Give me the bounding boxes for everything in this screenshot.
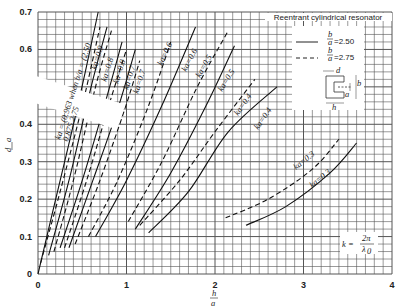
y-tick-label: 0.3 xyxy=(19,157,32,167)
curve-ka-0.4-b-a-2.50- xyxy=(149,87,277,233)
legend-dashed-label: =2.75 xyxy=(334,53,355,62)
k-formula: k = 2π λ 0 xyxy=(340,232,378,256)
curve-ka-0.5-b-a-2.75- xyxy=(128,31,228,222)
y-tick-label: 0.4 xyxy=(19,119,32,129)
svg-text:d: d xyxy=(3,147,13,152)
legend-solid-label: =2.50 xyxy=(334,37,355,46)
y-tick-label: 0.7 xyxy=(19,7,32,17)
svg-text:b: b xyxy=(357,78,361,88)
y-tick-label: 0.2 xyxy=(19,194,32,204)
svg-text:a: a xyxy=(328,53,332,63)
svg-text:2π: 2π xyxy=(362,233,371,243)
curve-labels: ka = (0.963 when b/a = (2.50 0.875 2.75 … xyxy=(5,40,333,190)
svg-text:λ: λ xyxy=(361,244,366,254)
svg-text:a: a xyxy=(3,138,13,142)
svg-text:h: h xyxy=(212,288,216,298)
label-ka-0.4-solid: ka=0.4 xyxy=(251,105,274,131)
resonator-chart: 0123400.10.20.30.40.50.60.7 ka = (0.963 … xyxy=(0,0,400,308)
svg-text:k =: k = xyxy=(342,239,354,249)
x-tick-label: 1 xyxy=(124,280,129,290)
x-tick-label: 0 xyxy=(35,280,40,290)
y-tick-label: 0.1 xyxy=(19,232,32,242)
svg-text:h: h xyxy=(332,102,336,112)
svg-text:a: a xyxy=(345,89,349,99)
legend: Reentrant cylindrical resonator b a =2.5… xyxy=(265,13,392,112)
x-axis-label: h a xyxy=(210,288,218,308)
curve-ka-0.5-b-a-2.50- xyxy=(135,46,234,229)
x-tick-label: 4 xyxy=(389,280,394,290)
y-tick-label: 0.6 xyxy=(19,44,32,54)
y-tick-label: 0 xyxy=(27,269,32,279)
svg-text:a: a xyxy=(211,298,215,308)
label-ka-0.6-dashed: ka=0.6 xyxy=(155,40,175,67)
legend-title: Reentrant cylindrical resonator xyxy=(274,13,383,22)
y-axis-label: d a xyxy=(3,138,13,152)
x-tick-label: 3 xyxy=(301,280,306,290)
